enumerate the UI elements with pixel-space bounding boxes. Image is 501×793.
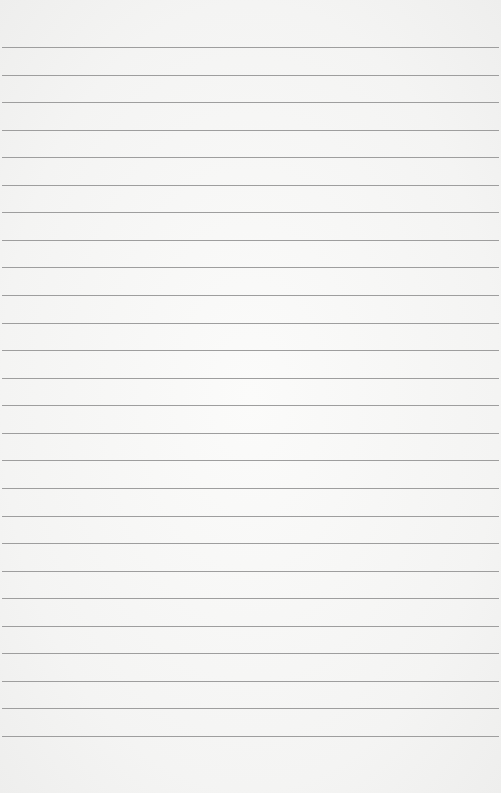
ruled-line [2,571,499,572]
ruled-line [2,516,499,517]
ruled-line [2,708,499,709]
ruled-line [2,681,499,682]
ruled-line [2,75,499,76]
ruled-line [2,488,499,489]
ruled-line [2,350,499,351]
ruled-line [2,543,499,544]
ruled-line [2,267,499,268]
lined-paper-sheet [0,0,501,793]
ruled-line [2,185,499,186]
ruled-line [2,653,499,654]
ruled-line [2,157,499,158]
ruled-line [2,240,499,241]
ruled-line [2,433,499,434]
ruled-line [2,102,499,103]
ruled-line [2,130,499,131]
ruled-line [2,295,499,296]
ruled-line [2,47,499,48]
ruled-line [2,460,499,461]
ruled-line [2,598,499,599]
ruled-line [2,626,499,627]
ruled-line [2,378,499,379]
ruled-line [2,405,499,406]
ruled-line [2,323,499,324]
ruled-line [2,212,499,213]
ruled-line [2,736,499,737]
